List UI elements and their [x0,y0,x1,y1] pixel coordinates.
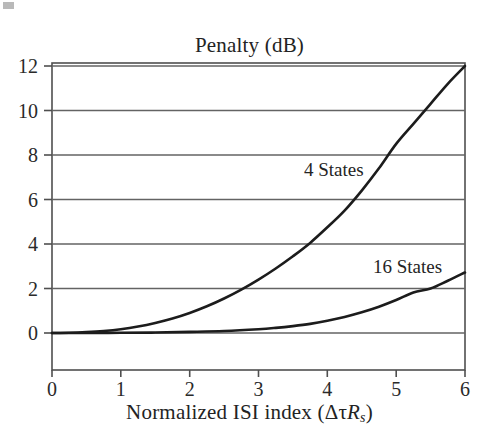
x-axis-title-prefix: Normalized ISI index ( [126,400,325,424]
x-tick-label-2: 2 [170,378,210,401]
x-axis-title-symbol-R: R [347,400,360,424]
x-axis-title-suffix: ) [366,400,373,424]
x-axis-title-subscript-s: s [360,410,366,425]
x-tick-label-1: 1 [101,378,141,401]
y-tick-label-10: 10 [0,100,38,123]
y-tick-label-6: 6 [0,189,38,212]
y-tick-label-2: 2 [0,278,38,301]
x-tick-label-6: 6 [445,378,485,401]
y-tick-label-12: 12 [0,55,38,78]
x-axis-title-delta-tau: Δτ [325,400,347,424]
x-tick-marks [52,370,465,377]
y-tick-marks [44,66,52,333]
series-annotation-4-states: 4 States [304,159,364,181]
x-tick-label-3: 3 [239,378,279,401]
x-tick-label-0: 0 [32,378,72,401]
series-line-16-states [52,272,465,333]
plot-frame [52,63,465,370]
x-tick-label-4: 4 [307,378,347,401]
series-annotation-16-states: 16 States [373,256,442,278]
chart-figure: Penalty (dB) [0,0,499,437]
y-tick-label-8: 8 [0,144,38,167]
y-tick-label-4: 4 [0,233,38,256]
plot-canvas [0,0,499,437]
x-tick-label-5: 5 [376,378,416,401]
gridlines-horizontal [52,66,465,333]
y-tick-label-0: 0 [0,322,38,345]
x-axis-title: Normalized ISI index (ΔτRs) [0,400,499,425]
